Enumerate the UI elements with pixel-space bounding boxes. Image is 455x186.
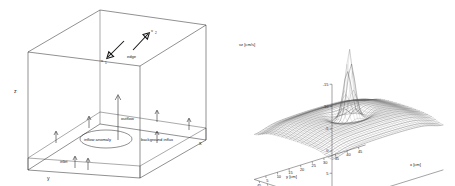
mesh-line bbox=[254, 145, 365, 180]
mesh-row bbox=[258, 100, 369, 135]
box-bottom-face bbox=[28, 124, 206, 178]
velocity-vector-v2 bbox=[133, 33, 149, 50]
xtick-label: 30 bbox=[323, 160, 328, 165]
label-v2: v bbox=[151, 28, 154, 33]
influx-arrow bbox=[87, 116, 91, 128]
xtick-label: 5 bbox=[266, 178, 268, 183]
axis-label-y: y bbox=[47, 175, 50, 181]
mesh-row bbox=[320, 117, 431, 152]
mesh-col bbox=[265, 127, 343, 153]
influx-arrow bbox=[73, 156, 77, 168]
label-edge: edge bbox=[127, 54, 137, 59]
ytick-label: 45 bbox=[257, 183, 261, 186]
velocity-vector-v1 bbox=[107, 41, 124, 58]
surface-plot-svg: -15-10-505104540353025201510551015202530… bbox=[228, 0, 455, 186]
label-v1: v bbox=[101, 58, 104, 63]
mesh-row bbox=[322, 118, 433, 153]
label-inflow-anomaly: inflow anomaly bbox=[84, 137, 112, 142]
label-v2-subscript: 2 bbox=[155, 31, 157, 35]
surface-plot-panel: -15-10-505104540353025201510551015202530… bbox=[228, 0, 455, 186]
xtick-label: 35 bbox=[335, 156, 339, 161]
label-inlet: inlet bbox=[60, 159, 68, 164]
influx-arrow bbox=[86, 158, 90, 170]
mesh-line bbox=[332, 170, 443, 186]
ztick-label: 5 bbox=[326, 171, 328, 176]
box-floor-inner bbox=[28, 112, 206, 166]
axis-title-vz: vz [cm/s] bbox=[239, 42, 255, 47]
mesh-col bbox=[352, 99, 430, 125]
box-wireframe bbox=[28, 10, 206, 178]
schematic-svg: z y x edge v 2 v 1 inflow anomaly backgr… bbox=[0, 0, 228, 186]
surface-mesh bbox=[254, 49, 443, 159]
influx-arrow bbox=[187, 118, 191, 130]
schematic-panel: z y x edge v 2 v 1 inflow anomaly backgr… bbox=[0, 0, 228, 186]
xtick-label: 25 bbox=[311, 163, 315, 168]
xtick-label: 10 bbox=[277, 174, 282, 179]
ztick-label: -10 bbox=[323, 104, 329, 109]
box-top-face bbox=[28, 10, 206, 66]
mesh-row bbox=[295, 90, 406, 141]
axis-label-z: z bbox=[14, 88, 17, 94]
label-background-influx: background influx bbox=[141, 137, 173, 142]
axis-title-y: y [cm] bbox=[286, 174, 297, 179]
figure-container: z y x edge v 2 v 1 inflow anomaly backgr… bbox=[0, 0, 455, 186]
label-v1-subscript: 1 bbox=[105, 61, 107, 65]
xtick-label: 20 bbox=[300, 167, 305, 172]
xtick-label: 40 bbox=[346, 152, 351, 157]
ztick-label: -5 bbox=[325, 126, 328, 131]
xtick-label: 45 bbox=[358, 149, 362, 154]
mesh-col bbox=[254, 134, 332, 160]
axis-title-x: x [cm] bbox=[410, 162, 421, 167]
mesh-row bbox=[324, 120, 435, 155]
outflow-arrows bbox=[115, 95, 121, 140]
ztick-label: -15 bbox=[323, 82, 329, 87]
label-outflow: outflow bbox=[121, 116, 134, 121]
axis-label-x: x bbox=[199, 140, 202, 146]
